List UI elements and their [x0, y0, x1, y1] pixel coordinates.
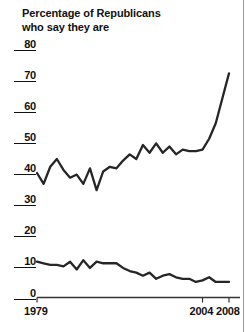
y-tick-label-30: 30: [14, 193, 36, 206]
y-tick-label-0: 0: [14, 287, 36, 300]
y-tick-label-10: 10: [14, 255, 36, 268]
series-line-upper: [37, 73, 229, 190]
x-tick-label-2004: 2004: [190, 305, 214, 317]
y-tick-label-50: 50: [14, 131, 36, 144]
x-tick-label-1979: 1979: [24, 305, 48, 317]
series-line-lower: [37, 260, 229, 282]
plot-area: 01020304050607080 197920042008: [0, 0, 252, 332]
y-tick-label-80: 80: [14, 38, 36, 51]
y-tick-label-60: 60: [14, 100, 36, 113]
line-series-svg: [0, 0, 252, 332]
x-tick-label-2008: 2008: [216, 305, 240, 317]
y-tick-label-20: 20: [14, 224, 36, 237]
x-tick-marks: [37, 298, 229, 303]
chart-figure: Percentage of Republicans who say they a…: [0, 0, 252, 332]
y-tick-label-70: 70: [14, 69, 36, 82]
y-tick-label-40: 40: [14, 162, 36, 175]
